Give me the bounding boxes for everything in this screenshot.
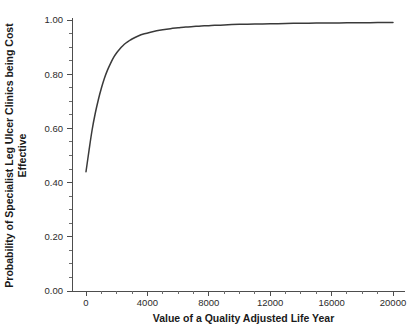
y-tick-label: 0.00 [45,285,64,296]
x-tick-label: 8000 [198,297,219,308]
y-axis-title-line-2: Effective [16,133,28,177]
data-series-line [86,22,393,171]
x-tick-label: 12000 [257,297,283,308]
y-tick-label: 1.00 [45,14,64,25]
x-axis-title: Value of a Quality Adjusted Life Year [153,312,334,324]
y-axis: 0.000.200.400.600.801.00 [45,14,73,296]
x-axis: 040008000120001600020000 [72,291,406,308]
x-tick-label: 20000 [380,297,406,308]
cost-effectiveness-acceptability-curve: 0.000.200.400.600.801.00 040008000120001… [0,0,420,332]
y-tick-label: 0.40 [45,177,64,188]
y-tick-label: 0.20 [45,231,64,242]
y-axis-title-line-1: Probability of Specialist Leg Ulcer Clin… [3,23,15,288]
x-tick-label: 4000 [137,297,158,308]
chart-figure: 0.000.200.400.600.801.00 040008000120001… [0,0,420,332]
y-tick-label: 0.80 [45,69,64,80]
x-tick-label: 0 [83,297,88,308]
x-tick-label: 16000 [318,297,344,308]
acceptability-curve-path [86,22,393,171]
y-tick-label: 0.60 [45,123,64,134]
